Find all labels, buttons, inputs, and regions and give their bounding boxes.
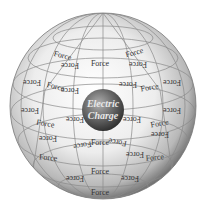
force-label: Force (38, 134, 57, 143)
force-label: Force (118, 80, 137, 89)
force-label: Force (128, 60, 147, 69)
force-label: Force (60, 61, 79, 70)
force-label: Force (145, 152, 164, 163)
force-label: Force (65, 174, 84, 183)
force-label: Force (20, 106, 39, 115)
force-label: Force (60, 86, 79, 95)
force-label: Force (120, 174, 139, 183)
force-label: Force (91, 59, 110, 68)
force-label: Force (150, 130, 169, 139)
force-sphere-diagram: ForceForceForceForceForceForceForceForce… (0, 0, 207, 215)
core-label-line2: Charge (88, 110, 119, 121)
force-label: Force (39, 152, 58, 163)
force-label: Force (22, 78, 41, 87)
force-label: Force (91, 188, 110, 197)
core-label-line1: Electric (86, 98, 120, 109)
diagram-canvas: ForceForceForceForceForceForceForceForce… (0, 0, 207, 215)
force-label: Force (125, 150, 144, 159)
force-label: Force (162, 106, 181, 115)
force-label: Force (91, 167, 110, 176)
force-label: Force (122, 115, 141, 124)
force-label: Force (91, 138, 110, 147)
force-label: Force (162, 78, 181, 87)
force-label: Force (65, 115, 84, 124)
